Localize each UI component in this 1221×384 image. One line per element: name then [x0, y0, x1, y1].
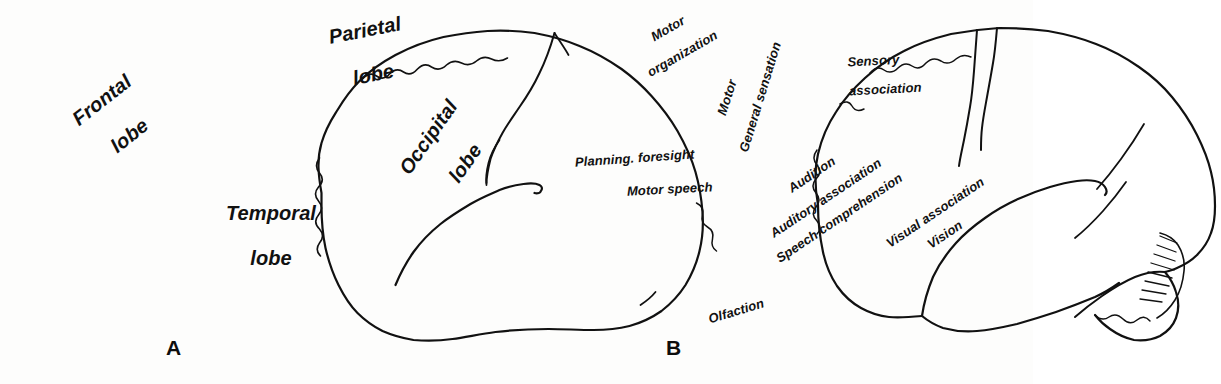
panel-letter-b: B: [666, 336, 681, 360]
panel-b-functional-areas: Motor organization Motor General sensati…: [516, 0, 1033, 384]
label-parietal-lobe-line-1: Parietal: [327, 13, 403, 49]
panel-letter-a: A: [166, 336, 181, 360]
label-parietal-lobe-line-2: lobe: [351, 60, 396, 90]
label-sensory-association-line-1: Sensory: [847, 51, 900, 69]
label-sensory-association: Sensory association: [824, 37, 923, 115]
label-occipital-lobe-line-2: lobe: [444, 140, 486, 187]
label-frontal-lobe-line-2: lobe: [106, 114, 152, 157]
label-temporal-lobe-line-1: Temporal: [226, 202, 316, 224]
label-frontal-lobe-line-1: Frontal: [68, 70, 136, 129]
label-motor-organization-line-1: Motor: [648, 12, 687, 43]
label-sensory-association-line-2: association: [849, 79, 922, 98]
label-parietal-lobe: Parietal lobe: [289, 0, 415, 121]
label-temporal-lobe-line-2: lobe: [250, 247, 292, 269]
label-temporal-lobe: Temporal lobe: [192, 180, 316, 292]
panel-a-lobes: Frontal lobe Parietal lobe Temporal lobe…: [0, 0, 516, 384]
